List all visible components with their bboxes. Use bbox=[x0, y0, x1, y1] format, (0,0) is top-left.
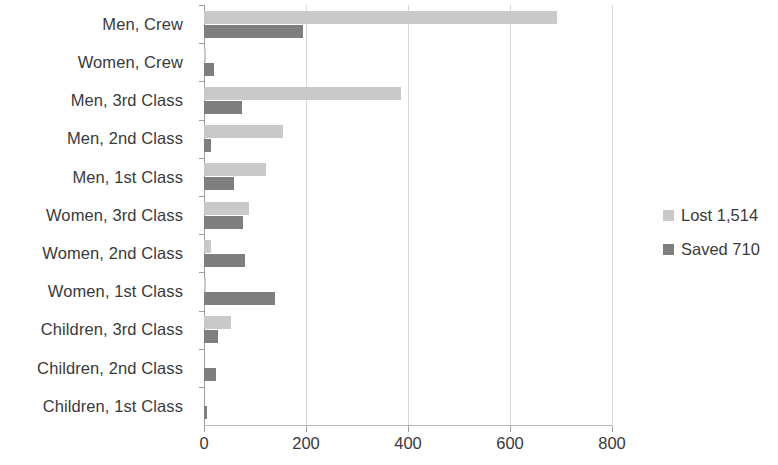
category-tick-mark bbox=[199, 196, 204, 197]
category-tick-mark bbox=[199, 120, 204, 121]
bar-row bbox=[204, 120, 612, 158]
bar-lost bbox=[204, 240, 211, 253]
bar-saved bbox=[204, 101, 242, 114]
bar-gap bbox=[204, 253, 612, 254]
bar-gap bbox=[204, 367, 612, 368]
bar-row bbox=[204, 311, 612, 349]
bar-row bbox=[204, 349, 612, 387]
bar-saved bbox=[204, 292, 275, 305]
value-tick-label: 400 bbox=[394, 435, 422, 452]
legend-swatch-saved-icon bbox=[663, 244, 674, 255]
category-label: Women, 2nd Class bbox=[0, 234, 192, 272]
bar-saved bbox=[204, 368, 216, 381]
value-tick-label: 600 bbox=[496, 435, 524, 452]
plot-area bbox=[204, 5, 612, 425]
bar-gap bbox=[204, 100, 612, 101]
bar-lost bbox=[204, 163, 266, 176]
bar-row bbox=[204, 81, 612, 119]
bar-saved bbox=[204, 139, 211, 152]
category-label: Men, 3rd Class bbox=[0, 81, 192, 119]
bar-lost bbox=[204, 316, 231, 329]
bar-row bbox=[204, 196, 612, 234]
bar-saved bbox=[204, 63, 214, 76]
category-label: Women, 3rd Class bbox=[0, 196, 192, 234]
value-tick-label: 800 bbox=[598, 435, 626, 452]
bar-saved bbox=[204, 406, 207, 419]
bar-lost bbox=[204, 49, 206, 62]
bar-saved bbox=[204, 25, 303, 38]
category-label: Children, 3rd Class bbox=[0, 311, 192, 349]
legend-label: Lost 1,514 bbox=[681, 206, 758, 225]
category-label: Women, 1st Class bbox=[0, 272, 192, 310]
legend-label: Saved 710 bbox=[681, 240, 760, 259]
category-axis-labels: Men, CrewWomen, CrewMen, 3rd ClassMen, 2… bbox=[0, 5, 192, 425]
bar-row bbox=[204, 5, 612, 43]
bar-gap bbox=[204, 62, 612, 63]
value-tick-mark bbox=[510, 426, 511, 432]
bar-lost bbox=[204, 11, 557, 24]
value-tick-mark bbox=[204, 426, 205, 432]
bar-gap bbox=[204, 329, 612, 330]
bar-lost bbox=[204, 125, 283, 138]
bar-lost bbox=[204, 278, 206, 291]
bar-saved bbox=[204, 254, 245, 267]
bar-row bbox=[204, 234, 612, 272]
category-tick-mark bbox=[199, 387, 204, 388]
category-tick-mark bbox=[199, 5, 204, 6]
bar-gap bbox=[204, 138, 612, 139]
bar-gap bbox=[204, 215, 612, 216]
category-label: Children, 2nd Class bbox=[0, 349, 192, 387]
bar-lost bbox=[204, 87, 401, 100]
value-tick-label: 0 bbox=[199, 435, 208, 452]
bar-chart: Men, CrewWomen, CrewMen, 3rd ClassMen, 2… bbox=[0, 0, 778, 465]
value-tick-mark bbox=[612, 426, 613, 432]
chart-legend: Lost 1,514Saved 710 bbox=[663, 198, 775, 266]
category-tick-mark bbox=[199, 272, 204, 273]
bar-row bbox=[204, 387, 612, 425]
category-label: Men, Crew bbox=[0, 5, 192, 43]
category-label: Men, 2nd Class bbox=[0, 120, 192, 158]
bar-gap bbox=[204, 176, 612, 177]
legend-swatch-lost-icon bbox=[663, 210, 674, 221]
bar-saved bbox=[204, 177, 234, 190]
value-tick-mark bbox=[408, 426, 409, 432]
value-axis-ticks: 0200400600800 bbox=[204, 426, 612, 456]
category-label: Women, Crew bbox=[0, 43, 192, 81]
legend-item[interactable]: Lost 1,514 bbox=[663, 198, 775, 232]
category-tick-mark bbox=[199, 311, 204, 312]
bar-rows bbox=[204, 5, 612, 425]
value-tick-mark bbox=[306, 426, 307, 432]
bar-row bbox=[204, 272, 612, 310]
bar-row bbox=[204, 158, 612, 196]
bar-saved bbox=[204, 216, 243, 229]
legend-item[interactable]: Saved 710 bbox=[663, 232, 775, 266]
bar-saved bbox=[204, 330, 218, 343]
category-tick-mark bbox=[199, 81, 204, 82]
category-label: Children, 1st Class bbox=[0, 387, 192, 425]
value-tick-label: 200 bbox=[292, 435, 320, 452]
category-tick-mark bbox=[199, 234, 204, 235]
bar-row bbox=[204, 43, 612, 81]
category-tick-mark bbox=[199, 349, 204, 350]
category-tick-mark bbox=[199, 43, 204, 44]
category-tick-mark bbox=[199, 158, 204, 159]
category-label: Men, 1st Class bbox=[0, 158, 192, 196]
gridline bbox=[612, 5, 613, 425]
bar-lost bbox=[204, 202, 249, 215]
bar-gap bbox=[204, 405, 612, 406]
